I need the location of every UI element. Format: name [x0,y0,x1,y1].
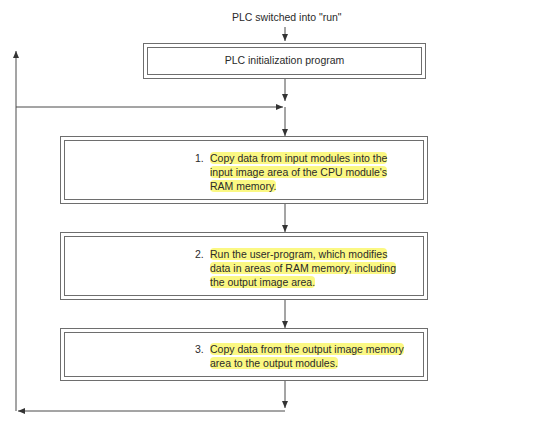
step-2-line-1: Run the user-program, which modifies [210,248,387,262]
init-program-label: PLC initialization program [144,54,425,68]
step-3-line-2: area to the output modules. [210,357,338,371]
step-2-number: 2. [195,248,204,262]
step-1-line-2: input image area of the CPU module's [210,166,387,180]
step-3-number: 3. [195,343,204,357]
step-2-line-3: the output image area. [210,276,315,290]
start-label: PLC switched into "run" [232,11,342,25]
init-program-box: PLC initialization program [143,43,426,79]
step-1-line-3: RAM memory. [210,180,276,194]
step-1-number: 1. [195,152,204,166]
step-3-line-1: Copy data from the output image memory [210,343,404,357]
step-1-line-1: Copy data from input modules into the [210,152,387,166]
step-2-line-2: data in areas of RAM memory, including [210,262,396,276]
